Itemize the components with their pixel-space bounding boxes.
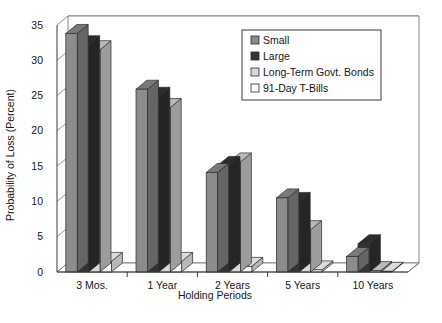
x-tick-label: 10 Years: [352, 279, 393, 291]
bar: [66, 24, 88, 272]
legend-swatch: [251, 84, 259, 92]
legend-swatch: [251, 36, 259, 44]
x-tick-label: 3 Mos.: [76, 279, 108, 291]
bar: [276, 189, 298, 272]
legend-label: Large: [263, 50, 290, 62]
y-tick-label: 20: [31, 124, 43, 136]
y-tick-label: 25: [31, 89, 43, 101]
bar: [206, 163, 228, 272]
y-tick-label: 15: [31, 160, 43, 172]
y-tick-labels: 05101520253035: [31, 19, 43, 278]
legend-swatch: [251, 52, 259, 60]
probability-of-loss-bar-chart: 05101520253035 3 Mos.1 Year2 Years5 Year…: [0, 0, 442, 323]
bar: [136, 80, 158, 272]
y-tick-label: 35: [31, 19, 43, 31]
x-tick-label: 1 Year: [147, 279, 177, 291]
x-tick-label: 5 Years: [285, 279, 320, 291]
figure-container: 05101520253035 3 Mos.1 Year2 Years5 Year…: [0, 0, 442, 323]
x-axis-title: Holding Periods: [178, 289, 252, 301]
legend-swatch: [251, 68, 259, 76]
legend: SmallLargeLong-Term Govt. Bonds91-Day T-…: [242, 30, 381, 100]
legend-label: 91-Day T-Bills: [263, 82, 328, 94]
y-tick-label: 5: [37, 230, 43, 242]
legend-label: Small: [263, 34, 289, 46]
y-tick-label: 0: [37, 266, 43, 278]
y-axis-title: Probability of Loss (Percent): [4, 89, 16, 221]
y-tick-label: 10: [31, 195, 43, 207]
y-tick-label: 30: [31, 54, 43, 66]
legend-label: Long-Term Govt. Bonds: [263, 66, 374, 78]
